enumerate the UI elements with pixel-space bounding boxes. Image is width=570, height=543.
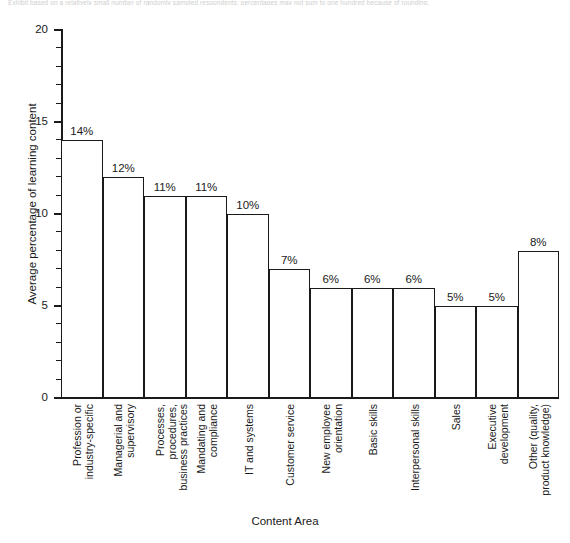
y-tick-major [54, 121, 62, 123]
x-category-label: Managerial and supervisory [113, 404, 136, 514]
x-category-label: Processes, procedures, business practice… [155, 404, 190, 514]
bar-value-label: 14% [61, 126, 103, 138]
x-category-label: Mandating and compliance [196, 404, 219, 514]
x-category-label: Interpersonal skills [410, 404, 422, 514]
y-tick-minor [56, 66, 62, 67]
bar [144, 196, 186, 398]
y-tick-minor [56, 84, 62, 85]
y-tick-minor [56, 47, 62, 48]
bar-value-label: 6% [351, 274, 393, 286]
bar-chart-figure: Exhibit based on a relatively small numb… [0, 0, 570, 543]
y-tick-label: 0 [14, 392, 48, 404]
y-tick-label: 10 [14, 208, 48, 220]
x-category-label: Profession or industry-specific [72, 404, 95, 514]
y-tick-label: 5 [14, 300, 48, 312]
bar-value-label: 8% [517, 237, 559, 249]
bar-value-label: 11% [185, 182, 227, 194]
bar [435, 306, 477, 398]
bar [227, 214, 269, 398]
x-category-label: New employee orientation [321, 404, 344, 514]
bar-value-label: 6% [310, 274, 352, 286]
bar-value-label: 5% [434, 292, 476, 304]
y-tick-label: 15 [14, 116, 48, 128]
bar [103, 177, 145, 398]
bar [518, 251, 560, 398]
y-tick-minor [56, 103, 62, 104]
x-category-label: Basic skills [368, 404, 380, 514]
bar [310, 288, 352, 398]
bar [476, 306, 518, 398]
bar [352, 288, 394, 398]
x-category-label: Customer service [285, 404, 297, 514]
y-tick-label: 20 [14, 24, 48, 36]
bar [186, 196, 228, 398]
bar [269, 269, 311, 398]
bar-value-label: 12% [102, 163, 144, 175]
x-category-label: Executive development [487, 404, 510, 514]
bar-value-label: 10% [227, 200, 269, 212]
y-tick-major [54, 29, 62, 31]
x-category-label: Sales [451, 404, 463, 514]
bar-value-label: 11% [144, 182, 186, 194]
bar [61, 140, 103, 398]
x-category-label: Other (quality, product knowledge) [528, 404, 551, 514]
x-axis-title: Content Area [0, 515, 570, 527]
bar [393, 288, 435, 398]
clipped-caption-sliver: Exhibit based on a relatively small numb… [8, 0, 564, 5]
bar-value-label: 5% [476, 292, 518, 304]
bar-value-label: 6% [393, 274, 435, 286]
x-category-label: IT and systems [244, 404, 256, 514]
bar-value-label: 7% [268, 255, 310, 267]
